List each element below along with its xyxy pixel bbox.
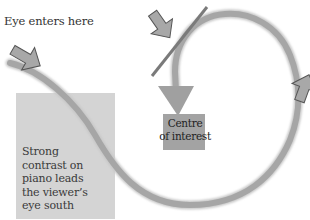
- piano-line: the viewer’s: [22, 186, 112, 200]
- top-arrow-icon: [142, 6, 181, 45]
- piano-line: contrast on: [22, 159, 112, 173]
- centre-line: of interest: [157, 130, 213, 143]
- path-arrowhead-icon: [158, 86, 194, 116]
- centre-of-interest-label: Centre of interest: [157, 117, 213, 143]
- piano-contrast-label: Strong contrast on piano leads the viewe…: [22, 145, 112, 213]
- centre-line: Centre: [157, 117, 213, 130]
- piano-line: eye south: [22, 199, 112, 213]
- entry-label: Eye enters here: [4, 14, 94, 28]
- piano-line: Strong: [22, 145, 112, 159]
- piano-line: piano leads: [22, 172, 112, 186]
- composition-diagram: Eye enters here Strong contrast on piano…: [0, 0, 310, 220]
